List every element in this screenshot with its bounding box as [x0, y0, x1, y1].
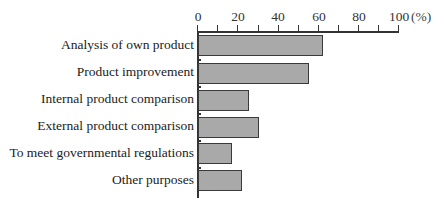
- x-tick-label-20: 20: [231, 9, 245, 25]
- x-tick-40: [278, 25, 279, 32]
- x-tick-label-80: 80: [352, 9, 366, 25]
- category-label: Analysis of own product: [61, 37, 194, 53]
- y-tick: [197, 59, 201, 61]
- x-tick-50: [298, 25, 299, 32]
- x-tick-30: [258, 25, 259, 32]
- x-tick-60: [318, 25, 319, 32]
- x-tick-label-60: 60: [312, 9, 326, 25]
- category-label: Other purposes: [112, 172, 194, 188]
- category-label: Product improvement: [77, 64, 194, 80]
- bar-internal-product-comparison: [198, 90, 249, 111]
- y-tick: [197, 140, 201, 142]
- bar-governmental-regulations: [198, 143, 232, 164]
- bar-analysis-of-own-product: [198, 35, 323, 56]
- x-tick-80: [358, 25, 359, 32]
- x-tick-10: [217, 25, 218, 32]
- y-tick: [197, 86, 201, 88]
- x-tick-20: [237, 25, 238, 32]
- x-tick-label-0: 0: [195, 9, 202, 25]
- x-tick-100: [398, 25, 399, 32]
- category-label: To meet governmental regulations: [9, 145, 194, 161]
- x-tick-label-100: 100: [389, 9, 409, 25]
- horizontal-bar-chart: 0 20 40 60 80 100 (%) Analysis of own pr…: [0, 0, 445, 206]
- x-tick-70: [338, 25, 339, 32]
- y-tick: [197, 113, 201, 115]
- category-label: External product comparison: [37, 118, 194, 134]
- bar-external-product-comparison: [198, 117, 259, 138]
- x-tick-label-40: 40: [271, 9, 285, 25]
- x-tick-90: [378, 25, 379, 32]
- x-axis-unit: (%): [411, 9, 431, 25]
- y-tick: [197, 167, 201, 169]
- bar-other-purposes: [198, 170, 242, 191]
- category-label: Internal product comparison: [41, 91, 194, 107]
- bar-product-improvement: [198, 63, 309, 84]
